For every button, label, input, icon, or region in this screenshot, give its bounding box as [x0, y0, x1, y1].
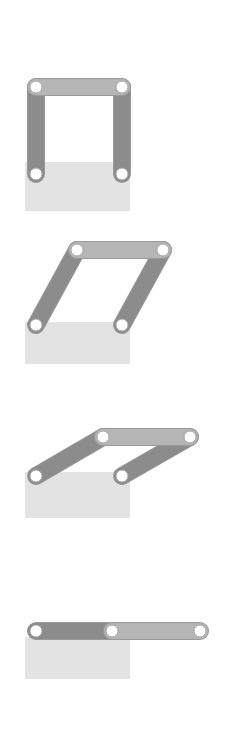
frame-4-joint-pivot-right [106, 625, 118, 637]
frame-1-joint-coupler-right [116, 81, 128, 93]
frame-3-ground-block [25, 472, 130, 518]
frame-1-joint-coupler-left [30, 81, 42, 93]
frame-2-crank-right [122, 250, 163, 325]
frame-2-crank-left [36, 250, 77, 325]
linkage-animation-stage [0, 0, 227, 756]
frame-1-joint-pivot-left [30, 168, 42, 180]
frame-4-canvas [0, 0, 227, 756]
frame-3-joint-pivot-right [116, 470, 128, 482]
frame-2-joint-coupler-right [157, 244, 169, 256]
frame-3-joint-coupler-left [97, 431, 109, 443]
frame-4-joint-coupler-right [194, 625, 206, 637]
frame-2-canvas [0, 0, 227, 756]
frame-1-ground-block [25, 162, 130, 211]
frame-3-crank-left [36, 437, 103, 476]
frame-3-crank-right-outline [122, 437, 190, 476]
frame-4-joint-pivot-left [30, 625, 42, 637]
frame-2-crank-right-outline [122, 250, 163, 325]
frame-3-crank-left-outline [36, 437, 103, 476]
frame-3-crank-right [122, 437, 190, 476]
frame-2-joint-coupler-left [71, 244, 83, 256]
frame-2-joint-pivot-left [30, 319, 42, 331]
frame-2-crank-left-outline [36, 250, 77, 325]
frame-4-joint-coupler-left [106, 625, 118, 637]
frame-3-joint-pivot-left [30, 470, 42, 482]
frame-2-joint-pivot-right [116, 319, 128, 331]
frame-1-joint-pivot-right [116, 168, 128, 180]
frame-3-joint-coupler-right [184, 431, 196, 443]
frame-2-ground-block [25, 322, 130, 364]
frame-4-ground-block [25, 637, 130, 679]
frame-1-canvas [0, 0, 227, 756]
frame-3-canvas [0, 0, 227, 756]
